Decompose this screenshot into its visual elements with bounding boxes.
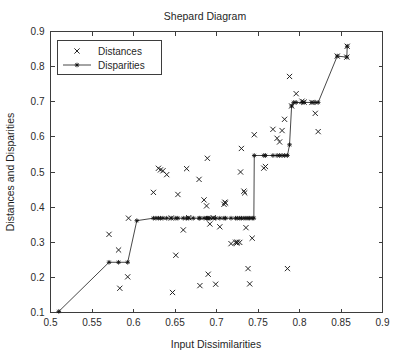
- x-tick-label: 0.6: [127, 317, 141, 328]
- chart-title: Shepard Diagram: [164, 10, 247, 22]
- y-tick-label: 0.9: [31, 26, 45, 37]
- y-tick-label: 0.7: [31, 96, 45, 107]
- y-axis-title: Distances and Disparities: [4, 113, 16, 231]
- y-tick-label: 0.6: [31, 131, 45, 142]
- shepard-diagram-figure: Shepard Diagram Distances and Disparitie…: [0, 0, 411, 354]
- x-tick-label: 0.75: [248, 317, 268, 328]
- chart-canvas: Shepard Diagram Distances and Disparitie…: [0, 0, 411, 354]
- series-disparities-markers: [57, 44, 350, 314]
- y-tick-label: 0.3: [31, 237, 45, 248]
- y-tick-label: 0.2: [31, 272, 45, 283]
- legend-label-distances: Distances: [98, 46, 142, 57]
- series-disparities-line: [59, 46, 347, 311]
- y-tick-label: 0.1: [31, 307, 45, 318]
- x-tick-label: 0.5: [44, 317, 58, 328]
- x-tick-label: 0.7: [210, 317, 224, 328]
- x-axis-title: Input Dissimilarities: [171, 338, 261, 350]
- x-tick-label: 0.8: [293, 317, 307, 328]
- series-distances-markers: [106, 44, 349, 295]
- x-tick-label: 0.55: [82, 317, 102, 328]
- x-tick-label: 0.65: [165, 317, 185, 328]
- y-tick-label: 0.4: [31, 202, 45, 213]
- x-tick-label: 0.9: [376, 317, 390, 328]
- legend-label-disparities: Disparities: [98, 60, 145, 71]
- x-tick-label: 0.85: [331, 317, 351, 328]
- chart-legend: DistancesDisparities: [58, 41, 162, 75]
- y-tick-label: 0.8: [31, 61, 45, 72]
- y-tick-label: 0.5: [31, 167, 45, 178]
